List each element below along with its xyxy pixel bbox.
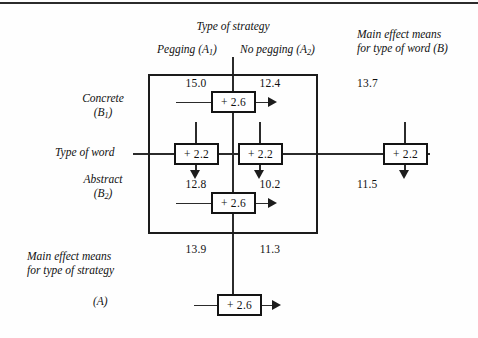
- effect-box-simple-a-at-b1-label: + 2.6: [221, 96, 246, 108]
- column-factor-title: Type of strategy: [196, 20, 269, 34]
- main-effect-word-line1: Main effect means: [357, 28, 448, 42]
- column-label-a1-paren: ): [213, 43, 217, 55]
- effect-box-main-a[interactable]: + 2.6: [217, 294, 262, 316]
- row-label-abstract-code: (B2): [84, 187, 123, 201]
- col1-effect-inbound-line: [195, 122, 197, 143]
- column-label-a1: Pegging (A1): [157, 43, 217, 57]
- cell-mean-a1b2: 12.8: [186, 178, 207, 192]
- cell-mean-a2b1: 12.4: [260, 77, 281, 91]
- row-factor-title: Type of word: [55, 146, 114, 160]
- row-marginal-mean-b2: 11.5: [357, 178, 378, 192]
- column-label-a2-paren: ): [311, 43, 315, 55]
- figure-canvas: Type of strategy Pegging (A1) No pegging…: [0, 0, 478, 338]
- bottom-effect-inbound-line: [176, 203, 211, 205]
- top-effect-outbound-line: [256, 102, 268, 104]
- main-effect-word-line2: for type of word (B): [357, 42, 448, 56]
- main-effect-strategy-caption: Main effect means for type of strategy: [27, 250, 114, 277]
- row-label-concrete-code: (B1): [82, 106, 124, 120]
- main-a-effect-outbound-line: [262, 305, 272, 307]
- column-label-a1-text: Pegging (A: [157, 43, 209, 55]
- arrow-down-icon-main-b-effect: [399, 170, 409, 179]
- effect-box-main-b[interactable]: + 2.2: [383, 143, 428, 165]
- effect-box-main-b-label: + 2.2: [393, 148, 418, 160]
- row-label-concrete: Concrete (B1): [82, 92, 124, 120]
- effect-box-simple-b-at-a1-label: + 2.2: [184, 148, 209, 160]
- effect-box-simple-a-at-b2-label: + 2.6: [221, 197, 246, 209]
- column-marginal-mean-a1: 13.9: [186, 243, 207, 257]
- column-label-a2-text: No pegging (A: [240, 43, 307, 55]
- row-label-concrete-code-text: (B: [94, 106, 105, 118]
- cell-mean-a1b1: 15.0: [186, 77, 207, 91]
- row-label-concrete-text: Concrete: [82, 92, 124, 106]
- effect-box-simple-b-at-a2-label: + 2.2: [248, 148, 273, 160]
- arrow-right-icon-main-a-effect: [272, 300, 281, 310]
- main-effect-strategy-line1: Main effect means: [27, 250, 114, 264]
- arrow-right-icon-bottom-effect: [268, 198, 277, 208]
- cell-mean-a2b2: 10.2: [260, 178, 281, 192]
- main-effect-strategy-code: (A): [93, 295, 108, 309]
- effect-box-simple-b-at-a2[interactable]: + 2.2: [238, 143, 283, 165]
- row-label-abstract-code-text: (B: [94, 187, 105, 199]
- column-marginal-mean-a2: 11.3: [260, 243, 281, 257]
- main-effect-word-caption: Main effect means for type of word (B): [357, 28, 448, 55]
- col2-effect-inbound-line: [259, 122, 261, 143]
- effect-box-main-a-label: + 2.6: [227, 299, 252, 311]
- effect-box-simple-a-at-b1[interactable]: + 2.6: [211, 91, 256, 113]
- row-label-abstract-paren: ): [109, 187, 113, 199]
- row-label-concrete-paren: ): [109, 106, 113, 118]
- top-effect-inbound-line: [176, 102, 211, 104]
- row-label-abstract: Abstract (B2): [84, 173, 123, 201]
- arrow-down-icon-col2-effect: [254, 170, 264, 179]
- arrow-down-icon-col1-effect: [190, 170, 200, 179]
- page-top-rule: [0, 2, 478, 4]
- main-b-effect-inbound-line: [404, 122, 406, 143]
- arrow-right-icon-top-effect: [268, 97, 277, 107]
- main-effect-strategy-line2: for type of strategy: [27, 264, 114, 278]
- main-a-effect-inbound-line: [194, 305, 217, 307]
- effect-box-simple-a-at-b2[interactable]: + 2.6: [211, 192, 256, 214]
- column-label-a2: No pegging (A2): [240, 43, 315, 57]
- row-label-abstract-text: Abstract: [84, 173, 123, 187]
- effect-box-simple-b-at-a1[interactable]: + 2.2: [174, 143, 219, 165]
- bottom-effect-outbound-line: [256, 203, 268, 205]
- row-marginal-mean-b1: 13.7: [357, 77, 378, 91]
